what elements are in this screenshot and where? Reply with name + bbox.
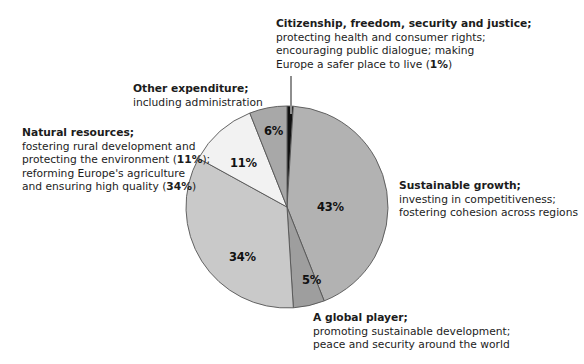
- callout-global-player-heading: A global player;: [313, 311, 563, 325]
- callout-citizenship-line-3-post: ): [448, 58, 452, 71]
- callout-natural-resources-line-1: fostering rural development and: [22, 140, 227, 154]
- callout-natural-resources-line-4: and ensuring high quality (34%): [22, 180, 227, 194]
- callout-natural-resources-line-4-post: ): [192, 180, 196, 193]
- callout-other-expenditure: Other expenditure; including administrat…: [133, 82, 323, 109]
- callout-global-player-line-2: peace and security around the world: [313, 338, 563, 352]
- callout-citizenship-line-2: encouraging public dialogue; making: [276, 44, 576, 58]
- callout-sustainable-growth-line-2: fostering cohesion across regions: [399, 206, 584, 220]
- pie-chart-figure: 43% 5% 34% 11% 6% Citizenship, freedom, …: [0, 0, 584, 364]
- callout-natural-resources-heading: Natural resources;: [22, 126, 227, 140]
- callout-citizenship: Citizenship, freedom, security and justi…: [276, 17, 576, 71]
- callout-citizenship-line-3: Europe a safer place to live (1%): [276, 58, 576, 72]
- callout-natural-resources-line-3: reforming Europe's agriculture: [22, 167, 227, 181]
- callout-global-player-line-1: promoting sustainable development;: [313, 325, 563, 339]
- callout-natural-resources-percent-environment: 11%: [177, 153, 203, 166]
- callout-citizenship-line-1: protecting health and consumer rights;: [276, 31, 576, 45]
- callout-sustainable-growth-line-1: investing in competitiveness;: [399, 193, 584, 207]
- callout-other-expenditure-line-1: including administration: [133, 96, 323, 110]
- callout-citizenship-line-3-pre: Europe a safer place to live (: [276, 58, 430, 71]
- slice-label-global-player: 5%: [302, 273, 321, 287]
- slice-label-rural-environment: 11%: [230, 156, 257, 170]
- slice-label-other-expenditure: 6%: [264, 124, 283, 138]
- callout-sustainable-growth: Sustainable growth; investing in competi…: [399, 179, 584, 220]
- callout-citizenship-percent: 1%: [430, 58, 448, 71]
- callout-global-player: A global player; promoting sustainable d…: [313, 311, 563, 352]
- callout-natural-resources-percent-agriculture: 34%: [166, 180, 192, 193]
- callout-natural-resources-line-2-post: );: [202, 153, 210, 166]
- callout-natural-resources-line-2-pre: protecting the environment (: [22, 153, 177, 166]
- callout-sustainable-growth-heading: Sustainable growth;: [399, 179, 584, 193]
- callout-other-expenditure-heading: Other expenditure;: [133, 82, 323, 96]
- callout-natural-resources-line-4-pre: and ensuring high quality (: [22, 180, 166, 193]
- callout-natural-resources: Natural resources; fostering rural devel…: [22, 126, 227, 194]
- callout-citizenship-heading: Citizenship, freedom, security and justi…: [276, 17, 576, 31]
- slice-label-agriculture: 34%: [229, 250, 256, 264]
- slice-label-sustainable-growth: 43%: [317, 200, 344, 214]
- callout-natural-resources-line-2: protecting the environment (11%);: [22, 153, 227, 167]
